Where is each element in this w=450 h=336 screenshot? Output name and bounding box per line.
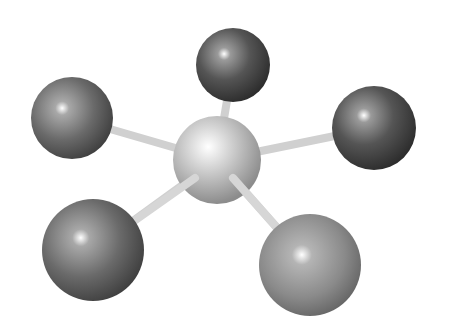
atom-bottom-right [259,214,361,316]
atom-bottom-left [42,199,144,301]
atom-top [196,28,270,102]
molecule-model [0,0,450,336]
atom-left [31,77,113,159]
atom-right [332,86,416,170]
